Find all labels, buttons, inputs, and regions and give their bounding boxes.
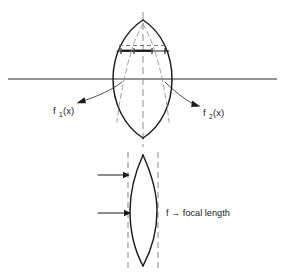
f2-label-group: f 2 (x) [203,107,224,120]
upper-ray-arrowhead [123,172,130,179]
figure-canvas: f 1 (x) f 2 (x) [0,0,284,280]
focal-length-annotation: f → focal length [166,208,230,218]
interior-ray-right [155,52,169,122]
lens-diagram-figure: f 1 (x) f 2 (x) [0,0,284,280]
band-marker-right [135,50,151,52]
lower-diagram-group: f → focal length [98,152,230,271]
f2-label-symbol: f [203,107,206,118]
lower-lens-left-surface [130,155,143,266]
f1-arrowhead [77,97,87,103]
f2-label-argument: (x) [213,107,224,118]
f1-label-group: f 1 (x) [53,105,74,118]
upper-diagram-group: f 1 (x) f 2 (x) [8,12,277,147]
f2-arrowhead [191,101,200,107]
f1-callout-leader [83,82,122,101]
f1-label-argument: (x) [63,105,74,116]
f1-label-symbol: f [53,105,56,116]
interior-ray-left [117,52,131,122]
lower-lens-right-surface [143,155,157,266]
